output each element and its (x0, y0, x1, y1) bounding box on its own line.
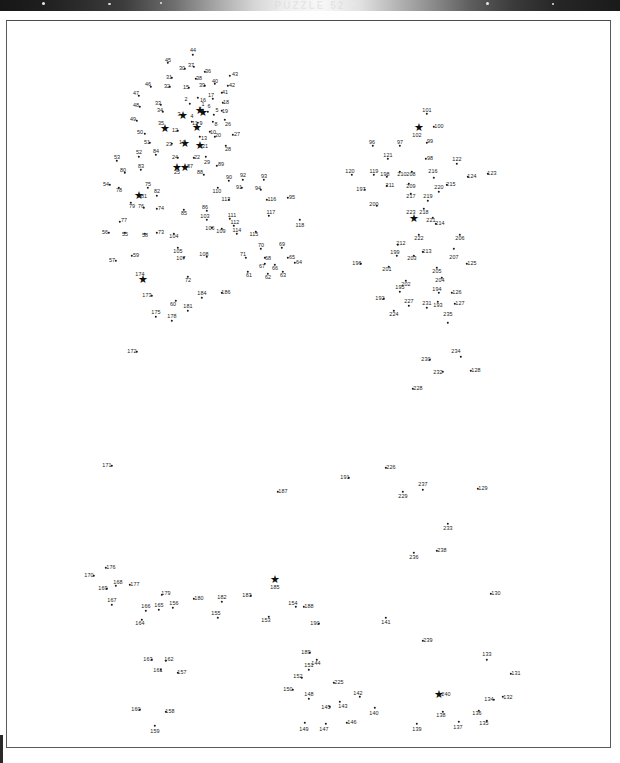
puzzle-dot-label: 72 (185, 278, 191, 283)
puzzle-dot-point (458, 721, 460, 723)
puzzle-dot-point (217, 617, 219, 619)
puzzle-dot-label: 75 (145, 182, 151, 187)
puzzle-dot-label: 84 (153, 149, 159, 154)
puzzle-dot-label: 184 (197, 291, 206, 296)
puzzle-dot-label: 112 (231, 220, 240, 225)
puzzle-dot-point (108, 232, 110, 234)
puzzle-dot-label: 110 (213, 189, 222, 194)
puzzle-dot-label: 22 (194, 155, 200, 160)
puzzle-dot-point (144, 133, 146, 135)
puzzle-dot-label: 120 (345, 169, 354, 174)
puzzle-dot-label: 52 (136, 150, 142, 155)
puzzle-dot-label: 194 (432, 287, 441, 292)
puzzle-dot-label: 102 (412, 133, 421, 138)
puzzle-dot-label: 47 (133, 91, 139, 96)
puzzle-dot-label: 147 (319, 727, 328, 732)
puzzle-dot-point (187, 310, 189, 312)
puzzle-dot-label: 70 (258, 243, 264, 248)
puzzle-dot-label: 213 (422, 249, 431, 254)
puzzle-dot-point (156, 195, 158, 197)
puzzle-dot-point (136, 120, 138, 122)
puzzle-dot-label: 4 (190, 114, 193, 119)
puzzle-dot-label: 204 (435, 278, 444, 283)
puzzle-dot-label: 74 (158, 206, 164, 211)
puzzle-dot-label: 145 (321, 705, 330, 710)
puzzle-dot-label: 162 (164, 657, 173, 662)
puzzle-dot-label: 18 (223, 100, 229, 105)
puzzle-dot-label: 27 (234, 132, 240, 137)
puzzle-dot-point (171, 320, 173, 322)
puzzle-dot-label: 48 (133, 103, 139, 108)
puzzle-dot-label: 226 (386, 465, 395, 470)
puzzle-dot-label: 88 (197, 170, 203, 175)
puzzle-dot-label: 106 (205, 226, 214, 231)
puzzle-dot-label: 152 (293, 674, 302, 679)
puzzle-dot-label: 130 (491, 591, 500, 596)
puzzle-dot-label: 232 (433, 370, 442, 375)
puzzle-dot-label: 202 (401, 282, 410, 287)
puzzle-dot-label: 127 (455, 301, 464, 306)
puzzle-dot-label: 153 (261, 618, 270, 623)
puzzle-dot-label: 206 (455, 236, 464, 241)
puzzle-dot-label: 39 (199, 83, 205, 88)
puzzle-dot-label: 151 (304, 663, 313, 668)
puzzle-dot-label: 141 (381, 620, 390, 625)
puzzle-dot-label: 109 (216, 229, 225, 234)
puzzle-dot-label: 200 (369, 202, 378, 207)
puzzle-dot-point (197, 97, 199, 99)
puzzle-dot-label: 217 (406, 194, 415, 199)
puzzle-dot-label: 42 (229, 83, 235, 88)
puzzle-dot-label: 111 (228, 213, 237, 218)
puzzle-dot-label: 182 (217, 595, 226, 600)
puzzle-dot-label: 95 (289, 195, 295, 200)
puzzle-dot-label: 2 (184, 97, 187, 102)
page-edge-mark (0, 735, 3, 763)
puzzle-dot-label: 161 (153, 668, 162, 673)
puzzle-dot-point (308, 669, 310, 671)
puzzle-dot-label: 31 (166, 75, 172, 80)
puzzle-dot-label: 98 (427, 156, 433, 161)
puzzle-dot-point (158, 609, 160, 611)
puzzle-dot-label: 154 (288, 601, 297, 606)
puzzle-dot-label: 78 (116, 188, 122, 193)
puzzle-dot-label: 92 (240, 173, 246, 178)
puzzle-dot-point (154, 725, 156, 727)
puzzle-dot-label: 175 (151, 310, 160, 315)
puzzle-dot-label: 166 (141, 604, 150, 609)
puzzle-dot-point (203, 174, 205, 176)
puzzle-dot-label: 201 (382, 267, 391, 272)
puzzle-dot-label: 215 (446, 182, 455, 187)
puzzle-dot-label: 105 (173, 249, 182, 254)
puzzle-dot-label: 77 (121, 218, 127, 223)
scanned-header-band: PUZZLE 52 (0, 0, 620, 11)
puzzle-dot-label: 30 (179, 66, 185, 71)
puzzle-dot-label: 172 (127, 349, 136, 354)
puzzle-dot-label: 191 (340, 475, 349, 480)
puzzle-dot-point (308, 698, 310, 700)
puzzle-dot-label: 79 (129, 204, 135, 209)
puzzle-dot-label: 122 (452, 157, 461, 162)
puzzle-dot-label: 171 (102, 463, 111, 468)
puzzle-dot-point (213, 114, 215, 116)
puzzle-dot-label: 96 (369, 140, 375, 145)
puzzle-dot-label: 89 (218, 162, 224, 167)
puzzle-dot-label: 168 (113, 580, 122, 585)
puzzle-dot-label: 73 (158, 230, 164, 235)
puzzle-dot-label: 36 (205, 69, 211, 74)
puzzle-dot-label: 16 (200, 98, 206, 103)
puzzle-dot-label: 53 (114, 155, 120, 160)
puzzle-dot-label: 134 (484, 697, 493, 702)
puzzle-dot-label: 14 (179, 140, 185, 145)
puzzle-dot-label: 67 (259, 264, 265, 269)
puzzle-dot-label: 38 (196, 76, 202, 81)
puzzle-dot-label: 238 (437, 548, 446, 553)
puzzle-dot-point (111, 604, 113, 606)
puzzle-dot-label: 190 (310, 621, 319, 626)
puzzle-dot-label: 207 (449, 255, 458, 260)
puzzle-dot-point (304, 722, 306, 724)
puzzle-dot-label: 125 (467, 261, 476, 266)
puzzle-dot-label: 155 (211, 611, 220, 616)
puzzle-dot-label: 160 (131, 707, 140, 712)
puzzle-dot-label: 192 (375, 296, 384, 301)
puzzle-dot-label: 50 (137, 130, 143, 135)
